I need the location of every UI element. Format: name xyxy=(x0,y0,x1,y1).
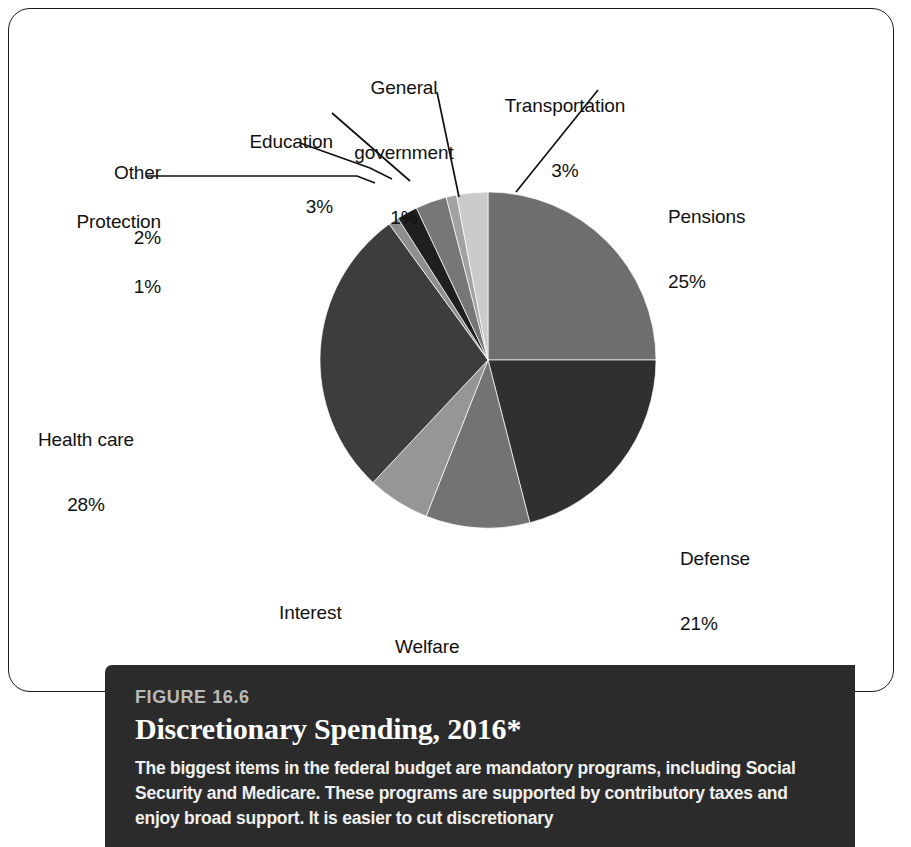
pie-label-transportation-name: Transportation xyxy=(470,95,660,117)
pie-label-transportation: Transportation 3% xyxy=(470,52,660,225)
pie-label-education-name: Education xyxy=(185,131,333,153)
figure-caption-text: The biggest items in the federal budget … xyxy=(135,756,807,831)
pie-label-pensions: Pensions 25% xyxy=(668,163,745,336)
pie-label-general-government-value: 1% xyxy=(330,207,478,229)
pie-label-welfare-name: Welfare xyxy=(395,636,459,658)
pie-label-interest-name: Interest xyxy=(279,602,342,624)
pie-label-transportation-value: 3% xyxy=(470,160,660,182)
pie-label-pensions-value: 25% xyxy=(668,271,745,293)
pie-chart: Pensions 25% Defense 21% Welfare 10% Int… xyxy=(0,0,911,700)
pie-label-defense-value: 21% xyxy=(680,613,750,635)
pie-label-pensions-name: Pensions xyxy=(668,206,745,228)
figure-title: Discretionary Spending, 2016* xyxy=(135,712,827,746)
pie-label-general-government-name-line1: General xyxy=(330,77,478,99)
pie-label-other-name: Other xyxy=(11,162,161,184)
pie-label-general-government: General government 1% xyxy=(330,34,478,272)
figure-caption-box: FIGURE 16.6 Discretionary Spending, 2016… xyxy=(105,665,855,847)
figure-number: FIGURE 16.6 xyxy=(135,687,827,708)
pie-label-health-care-value: 28% xyxy=(38,494,134,516)
pie-label-other-value: 2% xyxy=(11,227,161,249)
pie-label-defense: Defense 21% xyxy=(680,505,750,678)
pie-label-other: Other 2% xyxy=(11,119,161,292)
pie-label-education-value: 3% xyxy=(185,196,333,218)
pie-label-education: Education 3% xyxy=(185,88,333,261)
pie-label-health-care: Health care 28% xyxy=(38,386,134,559)
pie-label-defense-name: Defense xyxy=(680,548,750,570)
pie-label-health-care-name: Health care xyxy=(38,429,134,451)
pie-label-general-government-name-line2: government xyxy=(330,142,478,164)
